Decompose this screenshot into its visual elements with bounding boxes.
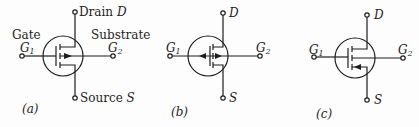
g2-label-c: G2	[398, 44, 413, 58]
source-label-c: S	[374, 94, 382, 106]
mosfet-symbols-drawing	[0, 0, 419, 127]
arrow-right-b	[215, 53, 222, 59]
source-label-a: Source S	[80, 92, 135, 104]
symbol-b	[168, 11, 262, 100]
drain-label-a: Drain D	[79, 6, 127, 18]
substrate-arrow-a	[64, 53, 72, 59]
caption-a: (a)	[22, 103, 39, 115]
caption-b: (b)	[171, 106, 188, 118]
g1-label-b: G1	[166, 42, 181, 56]
mosfet-symbols-figure: Drain D Gate G1 Substrate G2 Source S (a…	[0, 0, 419, 127]
gate-label-a: Gate	[12, 29, 41, 41]
g1-label-a: G1	[20, 42, 35, 56]
caption-c: (c)	[316, 108, 332, 120]
substrate-label-a: Substrate	[91, 29, 150, 41]
source-arrow-c	[354, 64, 361, 70]
source-label-b: S	[229, 92, 237, 104]
symbol-c	[312, 13, 405, 102]
drain-label-c: D	[374, 9, 384, 21]
drain-label-b: D	[229, 7, 239, 19]
arrow-left-b	[199, 53, 206, 59]
g2-label-a: G2	[108, 42, 123, 56]
g2-label-b: G2	[256, 42, 271, 56]
g1-label-c: G1	[309, 44, 324, 58]
